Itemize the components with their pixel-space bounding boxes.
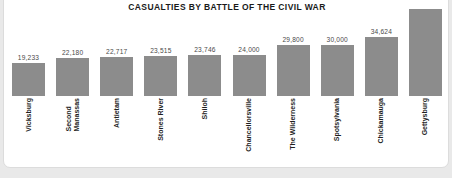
bar[interactable] xyxy=(100,57,133,96)
category-axis: VicksburgSecondManassasAntietamStones Ri… xyxy=(12,98,442,160)
bar-column[interactable]: 23,515 xyxy=(144,0,177,96)
bar[interactable] xyxy=(233,55,266,96)
bar-value-label: 23,515 xyxy=(150,47,171,54)
category-label-line: Gettysburg xyxy=(421,98,428,135)
bar-column[interactable]: 34,624 xyxy=(365,0,398,96)
category-column: Chancellorsville xyxy=(233,98,266,160)
category-label-line: Second xyxy=(64,106,71,131)
category-column: Antietam xyxy=(100,98,133,160)
bar-value-label: 19,233 xyxy=(18,54,39,61)
category-label-line: The Wilderness xyxy=(289,98,296,150)
category-column: Stones River xyxy=(144,98,177,160)
category-label: Antietam xyxy=(113,98,121,128)
category-label-line: Shiloh xyxy=(201,98,208,119)
category-column: The Wilderness xyxy=(277,98,310,160)
category-label-line: Stones River xyxy=(157,98,164,141)
bar-value-label: 24,000 xyxy=(238,46,259,53)
category-column: Chickamauga xyxy=(365,98,398,160)
category-label: SecondManassas xyxy=(64,98,81,131)
bar[interactable] xyxy=(144,56,177,96)
category-column: Gettysburg xyxy=(409,98,442,160)
bar[interactable] xyxy=(56,58,89,96)
category-label-line: Manassas xyxy=(73,98,81,131)
category-label: Chickamauga xyxy=(377,98,385,144)
category-label-line: Chickamauga xyxy=(377,98,384,144)
category-label: Shiloh xyxy=(201,98,209,119)
bar-column[interactable]: 19,233 xyxy=(12,0,45,96)
bar-column[interactable]: 29,800 xyxy=(277,0,310,96)
chart-card: CASUALTIES BY BATTLE OF THE CIVIL WAR 19… xyxy=(3,0,449,168)
bar[interactable] xyxy=(277,45,310,96)
category-label: Gettysburg xyxy=(421,98,429,135)
bar-column[interactable]: 23,746 xyxy=(188,0,221,96)
bar-value-label: 29,800 xyxy=(282,36,303,43)
category-column: Vicksburg xyxy=(12,98,45,160)
category-label: Chancellorsville xyxy=(245,98,253,152)
bar[interactable] xyxy=(12,63,45,96)
bar-value-label: 23,746 xyxy=(194,46,215,53)
bar-column[interactable]: 24,000 xyxy=(233,0,266,96)
bar[interactable] xyxy=(365,37,398,96)
bar[interactable] xyxy=(321,45,354,96)
category-label-line: Spotsylvania xyxy=(333,98,340,141)
bar-column[interactable]: 22,180 xyxy=(56,0,89,96)
category-column: Spotsylvania xyxy=(321,98,354,160)
bar-column[interactable]: 30,000 xyxy=(321,0,354,96)
bar-plot-area: 19,23322,18022,71723,51523,74624,00029,8… xyxy=(12,0,442,96)
bar-value-label: 22,180 xyxy=(62,49,83,56)
bar[interactable] xyxy=(188,55,221,96)
category-label-line: Chancellorsville xyxy=(245,98,252,152)
category-label: Spotsylvania xyxy=(333,98,341,141)
category-label: Vicksburg xyxy=(24,98,32,132)
category-label: The Wilderness xyxy=(289,98,297,150)
category-label-line: Vicksburg xyxy=(24,98,31,132)
bar-column[interactable] xyxy=(409,0,442,96)
category-label: Stones River xyxy=(157,98,165,141)
bar-value-label: 30,000 xyxy=(327,36,348,43)
category-column: Shiloh xyxy=(188,98,221,160)
category-column: SecondManassas xyxy=(56,98,89,160)
category-label-line: Antietam xyxy=(113,98,120,128)
bar-column[interactable]: 22,717 xyxy=(100,0,133,96)
bar-value-label: 22,717 xyxy=(106,48,127,55)
bar-value-label: 34,624 xyxy=(371,28,392,35)
bar[interactable] xyxy=(409,9,442,96)
